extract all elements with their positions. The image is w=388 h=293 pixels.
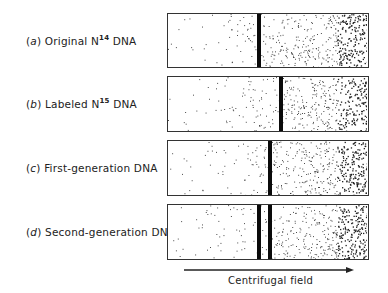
centrifugal-field-arrow-icon <box>184 266 354 274</box>
dna-band <box>268 141 272 195</box>
tube-original-n14 <box>167 13 369 68</box>
tube-second-generation <box>167 204 369 260</box>
tube-first-generation <box>167 140 369 196</box>
dna-band <box>257 14 261 67</box>
dna-band <box>279 77 283 131</box>
stipple-gradient <box>168 14 367 67</box>
dna-band <box>257 205 261 259</box>
dna-band <box>268 205 272 259</box>
tube-labeled-n15 <box>167 76 369 132</box>
label-labeled-n15-dna: (b) Labeled N15 DNA <box>26 98 137 110</box>
label-first-generation-dna: (c) First-generation DNA <box>26 162 158 174</box>
stipple-gradient <box>168 77 367 131</box>
label-second-generation-dna: (d) Second-generation DNA <box>26 226 175 238</box>
label-original-n14-dna: (a) Original N14 DNA <box>26 35 136 47</box>
axis-label: Centrifugal field <box>228 275 313 286</box>
